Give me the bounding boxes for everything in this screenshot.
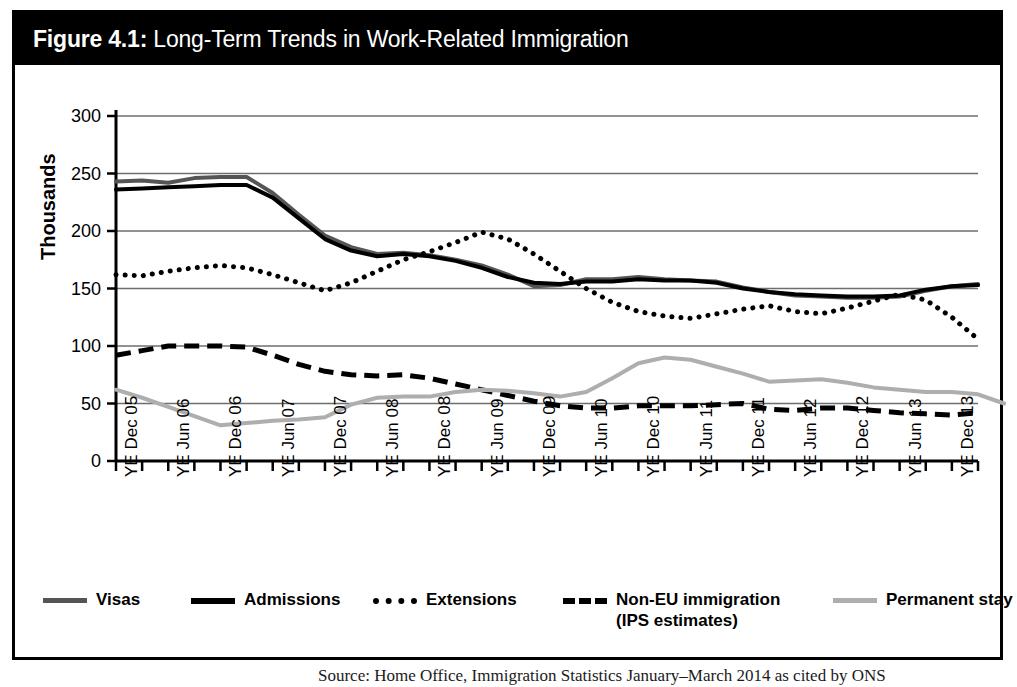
legend-item-non-eu-immigration[interactable]: Non-EU immigration(IPS estimates)	[563, 589, 780, 631]
x-tick-label: YE Dec 06	[226, 396, 246, 477]
series-line-admissions	[116, 185, 978, 297]
legend-label: Non-EU immigration(IPS estimates)	[616, 589, 780, 631]
legend-swatch-icon	[373, 598, 417, 604]
series-line-visas	[116, 177, 978, 298]
legend-swatch-icon	[43, 598, 87, 603]
x-tick-label: YE Dec 07	[331, 396, 351, 477]
y-tick-label: 50	[31, 393, 101, 414]
legend-label: Extensions	[426, 589, 517, 610]
legend-item-permanent-stay[interactable]: Permanent stay	[833, 589, 1013, 610]
legend-item-admissions[interactable]: Admissions	[191, 589, 340, 610]
x-tick-label: YE Dec 05	[122, 396, 142, 477]
x-tick-label: YE Jun 12	[801, 399, 821, 477]
x-tick-label: YE Dec 09	[540, 396, 560, 477]
x-tick-label: YE Jun 08	[383, 399, 403, 477]
x-tick-label: YE Jun 11	[697, 400, 717, 477]
legend-item-visas[interactable]: Visas	[43, 589, 140, 610]
legend-swatch-icon	[563, 598, 607, 604]
y-tick-label: 100	[31, 336, 101, 357]
legend-label: Permanent stay	[886, 589, 1013, 610]
figure-title-wrap: Figure 4.1: Long-Term Trends in Work-Rel…	[15, 26, 629, 53]
x-tick-label: YE Dec 08	[435, 396, 455, 477]
page-title: Long-Term Trends in Work-Related Immigra…	[153, 26, 628, 52]
x-tick-label: YE Jun 07	[279, 399, 299, 477]
y-tick-label: 300	[31, 106, 101, 127]
x-tick-label: YE Jun 06	[174, 399, 194, 477]
legend-label: Visas	[96, 589, 140, 610]
legend-swatch-icon	[191, 598, 235, 604]
figure-number: Figure 4.1:	[33, 26, 147, 52]
x-tick-label: YE Jun 13	[906, 399, 926, 477]
y-tick-label: 250	[31, 163, 101, 184]
figure-header: Figure 4.1: Long-Term Trends in Work-Rel…	[15, 13, 1000, 65]
x-tick-label: YE Dec 11	[749, 397, 769, 477]
y-tick-label: 0	[31, 451, 101, 472]
x-tick-label: YE Dec 13	[958, 396, 978, 477]
figure-root: Figure 4.1: Long-Term Trends in Work-Rel…	[0, 0, 1017, 687]
legend-swatch-icon	[833, 598, 877, 603]
figure-frame: Figure 4.1: Long-Term Trends in Work-Rel…	[12, 10, 1003, 660]
x-tick-label: YE Jun 09	[488, 399, 508, 477]
chart-legend: VisasAdmissionsExtensionsNon-EU immigrat…	[43, 589, 978, 651]
x-tick-label: YE Dec 10	[644, 396, 664, 477]
y-tick-label: 150	[31, 278, 101, 299]
legend-label: Admissions	[244, 589, 340, 610]
x-tick-label: YE Dec 12	[853, 396, 873, 477]
x-tick-label: YE Jun 10	[592, 399, 612, 477]
chart-body: Thousands 300250200150100500 YE Dec 05YE…	[15, 65, 1000, 663]
source-note: Source: Home Office, Immigration Statist…	[318, 666, 886, 686]
y-tick-label: 200	[31, 221, 101, 242]
legend-item-extensions[interactable]: Extensions	[373, 589, 517, 610]
